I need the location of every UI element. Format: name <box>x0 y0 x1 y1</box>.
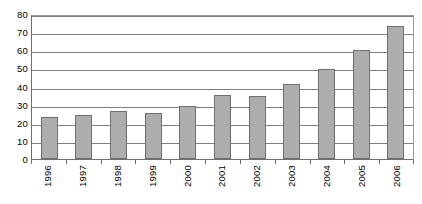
x-axis-tick-label: 2001 <box>218 165 228 187</box>
x-axis-tick-label: 1997 <box>78 165 88 187</box>
bar-series <box>32 16 413 159</box>
bar-slot <box>32 16 67 159</box>
y-axis-tick-label: 20 <box>2 119 28 129</box>
x-label-cell: 1996 <box>31 165 66 204</box>
x-label-cell: 1997 <box>66 165 101 204</box>
x-label-cell: 2006 <box>379 165 414 204</box>
x-tick-mark <box>101 160 102 164</box>
x-tick-mark <box>344 160 345 164</box>
x-label-cell: 2003 <box>275 165 310 204</box>
x-axis-tick-label: 2000 <box>183 165 193 187</box>
x-tick-mark <box>135 160 136 164</box>
x-tick-mark <box>413 160 414 164</box>
x-label-cell: 2000 <box>170 165 205 204</box>
y-axis-tick-label: 60 <box>2 47 28 57</box>
bar[interactable] <box>41 117 58 159</box>
x-axis-tick-labels: 1996199719981999200020012002200320042005… <box>31 165 414 204</box>
bar-slot <box>101 16 136 159</box>
bar-slot <box>67 16 102 159</box>
x-axis-tick-label: 2005 <box>357 165 367 187</box>
bar-slot <box>344 16 379 159</box>
bar[interactable] <box>387 26 404 159</box>
x-axis-tick-label: 2002 <box>253 165 263 187</box>
y-axis-tick-label: 40 <box>2 83 28 93</box>
y-axis-tick-label: 70 <box>2 28 28 38</box>
y-axis-tick-label: 10 <box>2 137 28 147</box>
bar[interactable] <box>75 115 92 159</box>
x-tick-mark <box>310 160 311 164</box>
y-axis-tick-label: 50 <box>2 65 28 75</box>
x-tick-mark <box>31 160 32 164</box>
bar-slot <box>205 16 240 159</box>
bar-slot <box>274 16 309 159</box>
bar[interactable] <box>353 50 370 159</box>
bar-slot <box>240 16 275 159</box>
x-tick-mark <box>66 160 67 164</box>
bar[interactable] <box>249 96 266 159</box>
bar-slot <box>136 16 171 159</box>
x-tick-mark <box>275 160 276 164</box>
x-axis-tick-label: 2004 <box>322 165 332 187</box>
bar[interactable] <box>179 106 196 159</box>
y-axis-tick-label: 80 <box>2 10 28 20</box>
x-axis-tick-label: 2006 <box>392 165 402 187</box>
x-label-cell: 1999 <box>135 165 170 204</box>
bar-slot <box>171 16 206 159</box>
x-tick-mark <box>379 160 380 164</box>
x-tick-mark <box>240 160 241 164</box>
bar[interactable] <box>283 84 300 159</box>
x-axis-tick-label: 2003 <box>287 165 297 187</box>
bar[interactable] <box>145 113 162 159</box>
y-axis-tick-labels: 01020304050607080 <box>0 0 28 160</box>
x-axis-tick-label: 1999 <box>148 165 158 187</box>
x-label-cell: 2002 <box>240 165 275 204</box>
x-label-cell: 2004 <box>310 165 345 204</box>
x-tick-mark <box>170 160 171 164</box>
plot-area <box>31 15 414 160</box>
x-label-cell: 1998 <box>101 165 136 204</box>
bar[interactable] <box>214 95 231 159</box>
x-axis-tick-label: 1998 <box>113 165 123 187</box>
bar[interactable] <box>110 111 127 159</box>
x-axis-tick-label: 1996 <box>44 165 54 187</box>
x-label-cell: 2005 <box>344 165 379 204</box>
bar-slot <box>309 16 344 159</box>
y-axis-tick-label: 0 <box>2 155 28 165</box>
x-label-cell: 2001 <box>205 165 240 204</box>
bar-chart: 01020304050607080 1996199719981999200020… <box>0 0 422 204</box>
y-axis-tick-label: 30 <box>2 101 28 111</box>
bar-slot <box>378 16 413 159</box>
x-tick-mark <box>205 160 206 164</box>
bar[interactable] <box>318 69 335 159</box>
